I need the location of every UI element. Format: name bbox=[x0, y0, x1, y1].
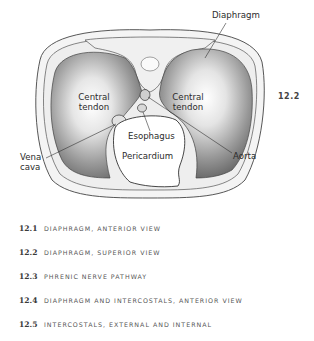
central-tendon-left-line1: Central bbox=[78, 92, 110, 102]
caption-text: DIAPHRAGM, SUPERIOR VIEW bbox=[44, 249, 161, 256]
vena-cava-line1: Vena bbox=[20, 152, 41, 162]
caption-item: 12.3 PHRENIC NERVE PATHWAY bbox=[19, 264, 309, 288]
caption-item: 12.5 INTERCOSTALS, EXTERNAL AND INTERNAL bbox=[19, 312, 309, 336]
central-tendon-left-line2: tendon bbox=[78, 102, 110, 112]
caption-item: 12.2 DIAPHRAGM, SUPERIOR VIEW bbox=[19, 240, 309, 264]
caption-text: DIAPHRAGM, ANTERIOR VIEW bbox=[44, 225, 161, 232]
central-tendon-right-line2: tendon bbox=[172, 102, 204, 112]
aorta-label: Aorta bbox=[233, 151, 256, 161]
pericardium-label: Pericardium bbox=[122, 151, 173, 161]
caption-item: 12.4 DIAPHRAGM AND INTERCOSTALS, ANTERIO… bbox=[19, 288, 309, 312]
esophagus-label: Esophagus bbox=[128, 131, 175, 141]
vena-cava-line2: cava bbox=[20, 162, 41, 172]
diaphragm-illustration bbox=[0, 0, 314, 205]
caption-number: 12.1 bbox=[19, 224, 44, 233]
caption-number: 12.3 bbox=[19, 272, 44, 281]
central-tendon-left-label: Central tendon bbox=[78, 92, 110, 112]
caption-number: 12.4 bbox=[19, 296, 44, 305]
figure-number: 12.2 bbox=[278, 92, 300, 101]
central-tendon-right-line1: Central bbox=[172, 92, 204, 102]
caption-text: INTERCOSTALS, EXTERNAL AND INTERNAL bbox=[44, 321, 212, 328]
caption-number: 12.2 bbox=[19, 248, 44, 257]
caption-text: DIAPHRAGM AND INTERCOSTALS, ANTERIOR VIE… bbox=[44, 297, 243, 304]
central-tendon-right-label: Central tendon bbox=[172, 92, 204, 112]
vena-cava-label: Vena cava bbox=[20, 152, 41, 172]
caption-number: 12.5 bbox=[19, 320, 44, 329]
diaphragm-label: Diaphragm bbox=[212, 10, 260, 20]
caption-text: PHRENIC NERVE PATHWAY bbox=[44, 273, 147, 280]
caption-item: 12.1 DIAPHRAGM, ANTERIOR VIEW bbox=[19, 216, 309, 240]
diaphragm-superior-view-figure: Diaphragm Central tendon Central tendon … bbox=[0, 0, 314, 205]
figure-caption-list: 12.1 DIAPHRAGM, ANTERIOR VIEW 12.2 DIAPH… bbox=[19, 216, 309, 336]
